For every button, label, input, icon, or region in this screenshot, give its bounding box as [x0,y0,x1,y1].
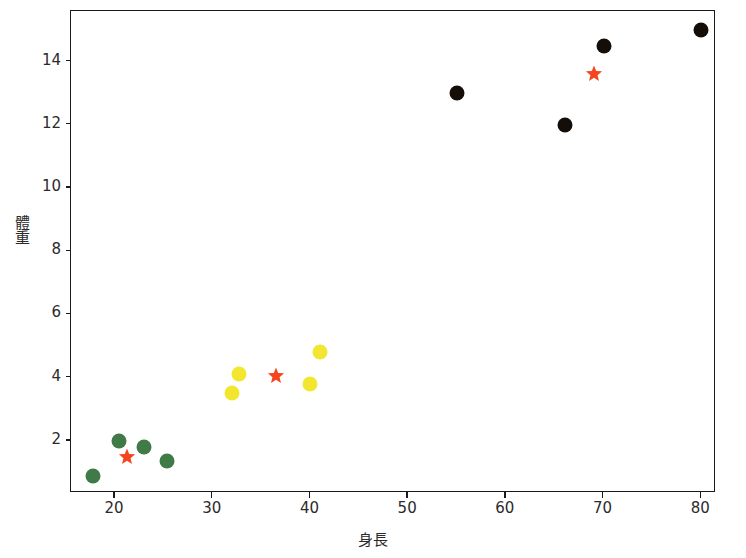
y-tick-label: 8 [32,242,61,257]
y-tick-label: 6 [32,305,61,320]
data-point-yellow [225,386,240,401]
x-tick-label: 60 [485,501,525,516]
data-point-yellow [313,345,328,360]
y-tick-label: 10 [32,179,61,194]
x-tick-label: 50 [387,501,427,516]
y-tick-label: 2 [32,432,61,447]
data-point-black [596,38,611,53]
x-tick-mark [406,492,407,498]
x-tick-label: 70 [583,501,623,516]
centroid-star-marker [118,448,135,465]
x-tick-mark [700,492,701,498]
y-axis-label: 體重 [4,215,28,245]
x-axis-label: 身長 [0,528,746,549]
x-tick-label: 80 [680,501,720,516]
data-point-black [557,117,572,132]
x-tick-mark [602,492,603,498]
x-tick-mark [309,492,310,498]
x-tick-mark [211,492,212,498]
y-tick-label: 14 [32,53,61,68]
centroid-star-marker [585,66,602,83]
data-point-green [159,454,174,469]
y-tick-label: 12 [32,116,61,131]
data-point-yellow [303,376,318,391]
x-tick-label: 30 [192,501,232,516]
data-point-green [85,468,100,483]
data-point-green [111,433,126,448]
plot-area [70,10,715,492]
centroid-star-marker [268,368,285,385]
y-tick-label: 4 [32,369,61,384]
chart-title [0,0,746,2]
x-tick-label: 20 [94,501,134,516]
data-point-green [137,440,152,455]
data-point-yellow [232,367,247,382]
x-tick-label: 40 [289,501,329,516]
x-tick-mark [113,492,114,498]
scatter-chart-figure: 體重 身長 2468101214 20304050607080 [0,0,746,558]
x-tick-mark [504,492,505,498]
data-point-black [450,86,465,101]
data-point-black [694,22,709,37]
